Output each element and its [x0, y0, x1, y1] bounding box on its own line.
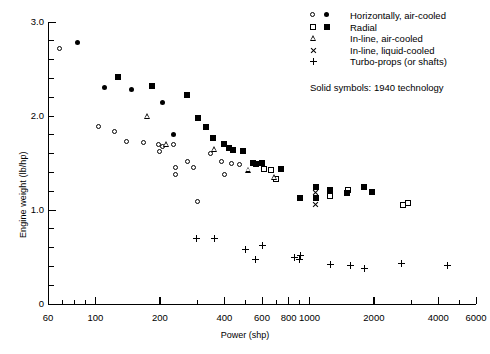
data-point [195, 199, 200, 204]
x-tick [438, 297, 439, 304]
data-point [102, 85, 107, 90]
legend-label: Radial [350, 22, 377, 33]
data-point [211, 235, 218, 242]
x-tick [288, 297, 289, 304]
data-point [173, 165, 178, 170]
data-point [160, 100, 165, 105]
data-point [253, 161, 259, 167]
legend-label: Horizontally, air-cooled [350, 10, 446, 21]
legend-symbol-solid [324, 12, 329, 17]
y-tick [49, 304, 56, 305]
data-point [173, 172, 178, 177]
data-point [185, 159, 190, 164]
data-point [271, 174, 277, 180]
data-point [405, 200, 411, 206]
y-axis-line [48, 22, 49, 305]
data-point [230, 147, 236, 153]
y-tick [49, 40, 54, 41]
y-tick-label: 3.0 [10, 16, 44, 27]
data-point [398, 260, 405, 267]
data-point [171, 132, 176, 137]
legend-label: In-line, liquid-cooled [350, 45, 435, 56]
data-point [312, 189, 319, 196]
data-point [144, 113, 150, 119]
data-point [245, 167, 251, 173]
x-tick [459, 300, 460, 305]
data-point [237, 162, 242, 167]
data-point [261, 166, 267, 172]
data-point [327, 261, 334, 268]
legend-symbol-open [310, 47, 317, 54]
legend-symbol-open [310, 24, 316, 30]
chart-root: Engine weight (lb/hp) Power (shp) 3.02.0… [0, 0, 490, 354]
x-axis-label: Power (shp) [200, 330, 290, 340]
y-tick [49, 116, 54, 117]
data-point [327, 187, 333, 193]
y-tick [49, 97, 54, 98]
y-tick-label: 0 [10, 298, 44, 309]
data-point [203, 124, 209, 130]
data-point [219, 159, 224, 164]
data-point [222, 172, 227, 177]
y-tick [49, 153, 54, 154]
y-tick [49, 210, 56, 211]
data-point [141, 140, 146, 145]
x-tick [476, 297, 477, 304]
data-point [327, 193, 333, 199]
data-point [347, 262, 354, 269]
data-point [252, 256, 259, 263]
data-point [149, 83, 155, 89]
data-point [313, 195, 319, 201]
data-point [242, 246, 249, 253]
data-point [268, 167, 274, 173]
data-point [278, 166, 284, 172]
x-tick [299, 300, 300, 305]
x-tick [245, 300, 246, 305]
legend-symbol-open [310, 35, 316, 41]
data-point [259, 242, 266, 249]
data-point [312, 201, 319, 208]
y-tick [49, 78, 54, 79]
x-tick [85, 300, 86, 305]
x-tick-label: 60 [26, 312, 70, 323]
y-axis-label: Engine weight (lb/hp) [18, 151, 28, 238]
x-tick [411, 300, 412, 305]
x-tick [373, 297, 374, 304]
y-tick [49, 228, 54, 229]
y-tick [49, 172, 54, 173]
data-point [193, 235, 200, 242]
y-tick-label: 2.0 [10, 110, 44, 121]
y-tick [49, 247, 54, 248]
data-point [369, 189, 375, 195]
x-tick [309, 297, 310, 304]
y-tick-label: 1.0 [10, 204, 44, 215]
data-point [129, 87, 134, 92]
x-tick [159, 297, 160, 304]
legend-symbol-open [310, 58, 317, 65]
x-tick-label: 1000 [287, 312, 331, 323]
y-tick [49, 191, 54, 192]
data-point [171, 142, 176, 147]
x-tick [62, 300, 63, 305]
legend-label: Turbo-props (or shafts) [350, 56, 447, 67]
data-point [444, 262, 451, 269]
y-tick [49, 22, 56, 23]
y-tick [49, 134, 54, 135]
x-tick [276, 300, 277, 305]
x-tick [74, 300, 75, 305]
data-point [115, 74, 121, 80]
data-point [157, 149, 162, 154]
data-point [124, 139, 129, 144]
data-point [229, 161, 234, 166]
data-point [361, 184, 367, 190]
data-point [259, 160, 265, 166]
data-point [211, 146, 217, 152]
x-tick [197, 300, 198, 305]
y-tick [49, 59, 54, 60]
x-tick [48, 297, 49, 304]
x-axis-line [48, 304, 476, 305]
data-point [75, 40, 80, 45]
data-point [57, 46, 62, 51]
data-point [195, 115, 201, 121]
data-point [210, 135, 216, 141]
